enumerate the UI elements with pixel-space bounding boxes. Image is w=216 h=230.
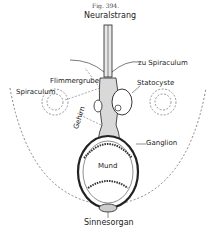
diagram-drawing [0,0,216,230]
label-neuralstrang: Neuralstrang [84,12,136,20]
label-zu-spiraculum: zu Spiraculum [138,60,188,67]
anatomical-figure: Fig. 394. Neuralstrang zu Spiraculum Fli… [0,0,216,230]
label-spiraculum: Spiraculum [16,89,55,96]
label-mund: Mund [98,163,117,170]
label-flimmergrube: Flimmergrube [50,78,99,85]
label-ganglion: Ganglion [146,140,177,147]
label-statocyste: Statocyste [137,80,174,87]
figure-caption: Fig. 394. [92,3,119,9]
label-sinnesorgan: Sinnesorgan [84,219,134,227]
